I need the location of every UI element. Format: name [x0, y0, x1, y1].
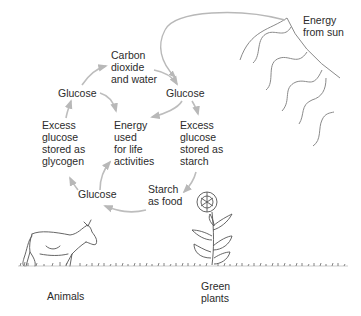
node-glucose-right: Glucose [166, 87, 205, 99]
cow-icon [23, 220, 97, 266]
node-glucose-left: Glucose [58, 87, 97, 99]
arrow-glucose-to-starch [192, 101, 198, 114]
label-green-plants: Green plants [201, 280, 230, 304]
arrow-glycogen-to-glucose [66, 101, 71, 118]
node-glucose-bottom: Glucose [78, 188, 117, 200]
sun-label: Energy from sun [303, 14, 344, 38]
arrow-glucose-bottom-to-energy [100, 162, 110, 190]
arrow-starch-to-food [184, 172, 196, 192]
node-co2-water: Carbon dioxide and water [111, 49, 157, 85]
node-starch-stored: Excess glucose stored as starch [180, 119, 223, 167]
node-glycogen: Excess glucose stored as glycogen [42, 119, 85, 167]
diagram-canvas: Energy from sun Carbon dioxide and water… [0, 0, 361, 316]
arrow-glucose-to-co2 [82, 66, 106, 85]
arrow-co2-to-glucose [154, 70, 177, 84]
label-animals: Animals [47, 290, 84, 302]
arrow-food-to-glucose [105, 206, 146, 212]
sun-to-glucose-arrow [161, 13, 285, 77]
node-energy-used: Energy used for life activities [114, 119, 154, 167]
arrow-glucose-bottom-to-glycogen [70, 178, 78, 190]
sun-rays-icon [253, 27, 334, 146]
arrow-glucose-right-to-energy [152, 101, 182, 117]
plant-icon [192, 192, 232, 265]
node-starch-food: Starch as food [148, 183, 182, 207]
arrow-glucose-to-energy [100, 93, 116, 111]
